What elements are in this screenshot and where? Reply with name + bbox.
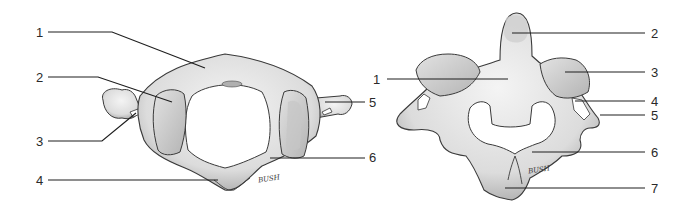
label-atlas-5: 5 bbox=[369, 96, 376, 109]
label-axis-1: 1 bbox=[373, 73, 380, 86]
label-atlas-4: 4 bbox=[36, 174, 43, 187]
label-axis-5: 5 bbox=[651, 109, 658, 122]
label-atlas-6: 6 bbox=[369, 151, 376, 164]
axis-vertebra bbox=[397, 13, 599, 200]
label-axis-3: 3 bbox=[651, 66, 658, 79]
label-axis-2: 2 bbox=[651, 27, 658, 40]
label-atlas-1: 1 bbox=[36, 26, 43, 39]
atlas-vertebra bbox=[102, 54, 352, 190]
illustration bbox=[0, 0, 694, 217]
label-atlas-2: 2 bbox=[36, 71, 43, 84]
label-axis-4: 4 bbox=[651, 95, 658, 108]
label-axis-6: 6 bbox=[651, 146, 658, 159]
label-axis-7: 7 bbox=[651, 182, 658, 195]
label-atlas-3: 3 bbox=[36, 135, 43, 148]
vertebrae-diagram: 1 2 3 4 5 6 1 2 3 4 5 6 7 BUSH BUSH bbox=[0, 0, 694, 217]
